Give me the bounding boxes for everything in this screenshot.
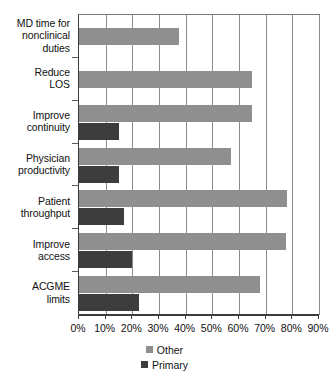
category-label-line: access xyxy=(0,250,70,262)
gridline xyxy=(212,15,213,315)
gridline xyxy=(132,15,133,315)
x-axis-tick xyxy=(265,314,266,319)
bar-other xyxy=(79,28,179,45)
category-label: Physicianproductivity xyxy=(0,152,70,176)
plot-area xyxy=(78,14,320,315)
category-label-line: duties xyxy=(0,42,70,54)
category-label: Improveaccess xyxy=(0,238,70,262)
legend-swatch-other xyxy=(146,346,153,353)
legend-item[interactable]: Other xyxy=(0,342,329,357)
category-tick xyxy=(72,57,78,58)
x-axis-tick-label: 90% xyxy=(298,321,329,335)
category-label-line: MD time for xyxy=(0,17,70,29)
category-label: MD time fornonclinicalduties xyxy=(0,17,70,54)
bar-other xyxy=(79,105,252,122)
bar-other xyxy=(79,233,286,250)
bar-chart: MD time fornonclinicaldutiesReduceLOSImp… xyxy=(0,0,329,377)
bar-primary xyxy=(79,208,124,225)
x-axis-tick xyxy=(78,314,79,319)
x-axis-tick xyxy=(105,314,106,319)
x-axis-tick xyxy=(238,314,239,319)
bar-other xyxy=(79,148,231,165)
bar-primary xyxy=(79,251,132,268)
x-axis-tick xyxy=(158,314,159,319)
x-axis-tick xyxy=(131,314,132,319)
category-tick xyxy=(72,271,78,272)
category-label-line: Physician xyxy=(0,152,70,164)
bar-other xyxy=(79,190,287,207)
x-axis-tick xyxy=(291,314,292,319)
category-label-line: Patient xyxy=(0,195,70,207)
category-tick xyxy=(72,228,78,229)
x-axis-tick xyxy=(185,314,186,319)
category-label-line: nonclinical xyxy=(0,29,70,41)
category-label-line: Reduce xyxy=(0,66,70,78)
category-label-line: continuity xyxy=(0,121,70,133)
chart-legend: OtherPrimary xyxy=(0,342,329,372)
legend-label: Primary xyxy=(152,359,188,371)
plot-inner xyxy=(79,15,319,315)
category-label-line: Improve xyxy=(0,109,70,121)
bar-other xyxy=(79,71,252,88)
category-label: ReduceLOS xyxy=(0,66,70,90)
category-label-line: LOS xyxy=(0,78,70,90)
bar-other xyxy=(79,276,260,293)
category-label-line: throughput xyxy=(0,207,70,219)
category-label: Improvecontinuity xyxy=(0,109,70,133)
category-label: ACGMElimits xyxy=(0,280,70,304)
legend-swatch-primary xyxy=(141,361,148,368)
gridline xyxy=(159,15,160,315)
category-tick xyxy=(72,143,78,144)
category-tick xyxy=(72,100,78,101)
legend-item[interactable]: Primary xyxy=(0,357,329,372)
gridline xyxy=(292,15,293,315)
category-tick xyxy=(72,185,78,186)
gridline xyxy=(319,15,320,315)
category-label-line: Improve xyxy=(0,238,70,250)
x-axis-tick xyxy=(211,314,212,319)
x-axis-line xyxy=(78,314,319,316)
x-axis-tick-labels: 0%10%20%30%40%50%60%70%80%90% xyxy=(0,321,329,337)
legend-label: Other xyxy=(157,344,183,356)
category-label-line: productivity xyxy=(0,164,70,176)
bar-primary xyxy=(79,166,119,183)
category-label-line: limits xyxy=(0,293,70,305)
x-axis-tick xyxy=(318,314,319,319)
category-label: Patientthroughput xyxy=(0,195,70,219)
gridline xyxy=(266,15,267,315)
category-label-line: ACGME xyxy=(0,280,70,292)
bar-primary xyxy=(79,294,139,311)
bar-primary xyxy=(79,123,119,140)
gridline xyxy=(186,15,187,315)
gridline xyxy=(239,15,240,315)
category-axis-labels: MD time fornonclinicaldutiesReduceLOSImp… xyxy=(0,14,74,314)
